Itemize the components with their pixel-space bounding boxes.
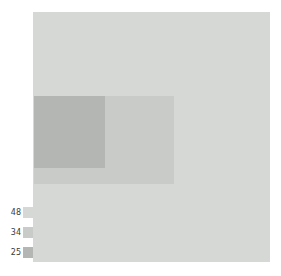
legend-label-48: 48 bbox=[11, 208, 23, 217]
legend-item-34: 34 bbox=[0, 223, 33, 241]
legend-label-25: 25 bbox=[11, 248, 23, 257]
legend-item-25: 25 bbox=[0, 243, 33, 261]
legend-swatch-34 bbox=[23, 227, 33, 238]
legend: 48 34 25 bbox=[0, 203, 33, 265]
legend-swatch-48 bbox=[23, 207, 33, 218]
figure-canvas: 48 34 25 bbox=[0, 0, 281, 276]
region-rect-overlap bbox=[34, 96, 105, 168]
plot-area bbox=[33, 12, 270, 262]
legend-label-34: 34 bbox=[11, 228, 23, 237]
legend-item-48: 48 bbox=[0, 203, 33, 221]
legend-swatch-25 bbox=[23, 247, 33, 258]
